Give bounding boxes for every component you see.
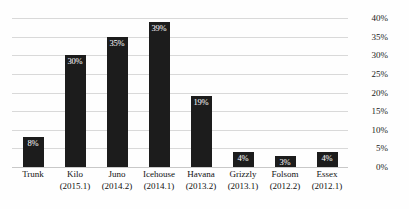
y-tick-label: 0% <box>352 162 388 172</box>
x-tick-name: Grizzly <box>222 169 264 181</box>
x-tick-havana: Havana(2013.2) <box>180 169 222 192</box>
x-tick-trunk: Trunk <box>12 169 54 181</box>
x-tick-version: (2013.2) <box>180 181 222 193</box>
bar-value-label: 8% <box>23 138 44 148</box>
x-tick-essex: Essex(2012.1) <box>306 169 348 192</box>
y-tick-label: 20% <box>352 88 388 98</box>
bar-value-label: 30% <box>65 56 86 66</box>
x-tick-version: (2012.2) <box>264 181 306 193</box>
bar-essex[interactable]: 4% <box>317 152 338 167</box>
bar-slot: 19% <box>180 18 222 167</box>
x-tick-name: Havana <box>180 169 222 181</box>
bar-icehouse[interactable]: 39% <box>149 22 170 167</box>
y-tick-label: 35% <box>352 32 388 42</box>
bar-value-label: 19% <box>191 97 212 107</box>
bar-chart: 8%30%35%39%19%4%3%4% 40%35%30%25%20%15%1… <box>0 0 409 209</box>
bar-grizzly[interactable]: 4% <box>233 152 254 167</box>
x-tick-grizzly: Grizzly(2013.1) <box>222 169 264 192</box>
bar-trunk[interactable]: 8% <box>23 137 44 167</box>
x-tick-name: Essex <box>306 169 348 181</box>
x-tick-kilo: Kilo(2015.1) <box>54 169 96 192</box>
x-tick-name: Kilo <box>54 169 96 181</box>
x-tick-juno: Juno(2014.2) <box>96 169 138 192</box>
bar-kilo[interactable]: 30% <box>65 55 86 167</box>
bar-slot: 8% <box>12 18 54 167</box>
y-tick-label: 25% <box>352 69 388 79</box>
bar-havana[interactable]: 19% <box>191 96 212 167</box>
x-tick-name: Juno <box>96 169 138 181</box>
bar-value-label: 4% <box>317 153 338 163</box>
x-tick-name: Folsom <box>264 169 306 181</box>
bar-slot: 39% <box>138 18 180 167</box>
plot-area: 8%30%35%39%19%4%3%4% <box>12 18 348 167</box>
x-axis: TrunkKilo(2015.1)Juno(2014.2)Icehouse(20… <box>12 169 348 209</box>
x-tick-folsom: Folsom(2012.2) <box>264 169 306 192</box>
bar-slot: 30% <box>54 18 96 167</box>
y-tick-label: 40% <box>352 13 388 23</box>
gridline-0% <box>12 167 348 168</box>
x-tick-icehouse: Icehouse(2014.1) <box>138 169 180 192</box>
y-axis: 40%35%30%25%20%15%10%5%0% <box>352 0 409 209</box>
bar-slot: 3% <box>264 18 306 167</box>
bar-value-label: 3% <box>275 157 296 167</box>
y-tick-label: 15% <box>352 106 388 116</box>
x-tick-name: Trunk <box>12 169 54 181</box>
bar-juno[interactable]: 35% <box>107 37 128 167</box>
bar-value-label: 39% <box>149 23 170 33</box>
x-tick-version: (2012.1) <box>306 181 348 193</box>
bar-slot: 4% <box>222 18 264 167</box>
bar-slot: 4% <box>306 18 348 167</box>
y-tick-label: 5% <box>352 143 388 153</box>
bar-folsom[interactable]: 3% <box>275 156 296 167</box>
x-tick-version: (2013.1) <box>222 181 264 193</box>
bar-value-label: 4% <box>233 153 254 163</box>
y-tick-label: 10% <box>352 125 388 135</box>
x-tick-version: (2015.1) <box>54 181 96 193</box>
x-tick-name: Icehouse <box>138 169 180 181</box>
bar-value-label: 35% <box>107 38 128 48</box>
y-tick-label: 30% <box>352 50 388 60</box>
bar-slot: 35% <box>96 18 138 167</box>
x-tick-version: (2014.1) <box>138 181 180 193</box>
x-tick-version: (2014.2) <box>96 181 138 193</box>
bars-container: 8%30%35%39%19%4%3%4% <box>12 18 348 167</box>
